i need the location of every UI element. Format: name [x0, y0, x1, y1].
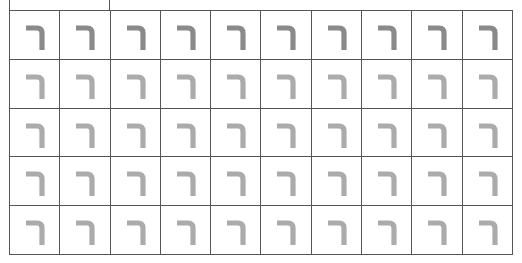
grid-cell — [111, 11, 161, 60]
resh-letter-icon — [176, 18, 198, 50]
grid-cell — [111, 60, 161, 109]
resh-letter-icon — [126, 213, 148, 245]
resh-letter-icon — [25, 164, 47, 196]
grid-cell — [362, 60, 412, 109]
grid-cell — [412, 11, 462, 60]
resh-letter-icon — [25, 67, 47, 99]
resh-letter-icon — [478, 164, 500, 196]
resh-letter-icon — [478, 67, 500, 99]
grid-cell — [111, 109, 161, 158]
grid-cell — [412, 206, 462, 255]
grid-cell — [412, 60, 462, 109]
grid-cell — [463, 206, 513, 255]
grid-cell — [312, 206, 362, 255]
grid-cell — [261, 157, 311, 206]
resh-letter-icon — [75, 67, 97, 99]
resh-letter-icon — [176, 67, 198, 99]
grid-cell — [463, 157, 513, 206]
resh-letter-icon — [276, 116, 298, 148]
grid-cell — [111, 157, 161, 206]
resh-letter-icon — [327, 213, 349, 245]
resh-letter-icon — [126, 18, 148, 50]
resh-letter-icon — [377, 18, 399, 50]
resh-letter-icon — [75, 116, 97, 148]
resh-letter-icon — [75, 164, 97, 196]
resh-letter-icon — [478, 18, 500, 50]
grid-cell — [463, 11, 513, 60]
grid-cell — [10, 109, 60, 158]
grid-cell — [261, 60, 311, 109]
resh-letter-icon — [126, 116, 148, 148]
resh-letter-icon — [377, 213, 399, 245]
grid-cell — [312, 157, 362, 206]
resh-letter-icon — [327, 164, 349, 196]
resh-letter-icon — [226, 67, 248, 99]
resh-letter-icon — [327, 18, 349, 50]
resh-letter-icon — [427, 67, 449, 99]
grid-cell — [261, 206, 311, 255]
grid-cell — [211, 11, 261, 60]
grid-cell — [362, 157, 412, 206]
grid-cell — [362, 109, 412, 158]
resh-letter-icon — [427, 164, 449, 196]
resh-letter-icon — [25, 116, 47, 148]
grid-cell — [161, 109, 211, 158]
resh-letter-icon — [276, 18, 298, 50]
resh-letter-icon — [478, 116, 500, 148]
grid-cell — [463, 60, 513, 109]
resh-letter-icon — [176, 116, 198, 148]
resh-letter-icon — [226, 164, 248, 196]
grid-cell — [211, 157, 261, 206]
grid-cell — [161, 11, 211, 60]
grid-cell — [161, 60, 211, 109]
tracing-grid — [9, 10, 513, 255]
grid-cell — [312, 60, 362, 109]
grid-cell — [60, 109, 110, 158]
grid-cell — [10, 11, 60, 60]
resh-letter-icon — [226, 18, 248, 50]
resh-letter-icon — [176, 213, 198, 245]
resh-letter-icon — [276, 67, 298, 99]
resh-letter-icon — [377, 116, 399, 148]
grid-cell — [362, 11, 412, 60]
resh-letter-icon — [377, 67, 399, 99]
grid-cell — [312, 11, 362, 60]
resh-letter-icon — [126, 67, 148, 99]
resh-letter-icon — [427, 18, 449, 50]
grid-cell — [412, 157, 462, 206]
grid-cell — [10, 206, 60, 255]
grid-cell — [60, 11, 110, 60]
grid-cell — [362, 206, 412, 255]
grid-cell — [261, 11, 311, 60]
grid-cell — [60, 60, 110, 109]
resh-letter-icon — [276, 164, 298, 196]
resh-letter-icon — [126, 164, 148, 196]
grid-cell — [211, 60, 261, 109]
grid-cell — [412, 109, 462, 158]
resh-letter-icon — [427, 116, 449, 148]
grid-cell — [211, 206, 261, 255]
resh-letter-icon — [226, 213, 248, 245]
resh-letter-icon — [327, 67, 349, 99]
grid-cell — [10, 60, 60, 109]
resh-letter-icon — [226, 116, 248, 148]
grid-cell — [111, 206, 161, 255]
grid-cell — [261, 109, 311, 158]
resh-letter-icon — [327, 116, 349, 148]
resh-letter-icon — [75, 18, 97, 50]
grid-cell — [60, 157, 110, 206]
grid-cell — [161, 157, 211, 206]
resh-letter-icon — [276, 213, 298, 245]
resh-letter-icon — [176, 164, 198, 196]
grid-cell — [60, 206, 110, 255]
resh-letter-icon — [478, 213, 500, 245]
resh-letter-icon — [25, 18, 47, 50]
resh-letter-icon — [75, 213, 97, 245]
resh-letter-icon — [377, 164, 399, 196]
resh-letter-icon — [427, 213, 449, 245]
grid-cell — [161, 206, 211, 255]
grid-cell — [211, 109, 261, 158]
previous-row-fragment — [9, 0, 110, 10]
grid-cell — [463, 109, 513, 158]
grid-cell — [312, 109, 362, 158]
